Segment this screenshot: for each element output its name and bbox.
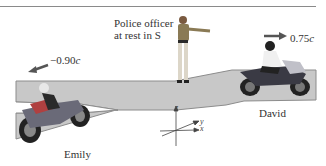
- emily-velocity-unit: c: [75, 54, 80, 66]
- david-velocity-value: 0.75: [290, 32, 309, 44]
- police-officer-figure-icon: [177, 16, 210, 83]
- emily-velocity-arrow-icon: [28, 65, 48, 73]
- officer-label: Police officer at rest in S: [114, 17, 173, 41]
- emily-velocity-value: −0.90: [50, 54, 75, 66]
- z-axis-label: z: [175, 103, 178, 112]
- coordinate-axes-icon: [160, 106, 199, 146]
- david-velocity-arrow-icon: [264, 32, 287, 40]
- emily-velocity-label: −0.90c: [50, 54, 80, 66]
- emily-name-label: Emily: [64, 148, 91, 160]
- david-name-label: David: [259, 107, 286, 119]
- david-velocity-unit: c: [309, 32, 314, 44]
- david-velocity-label: 0.75c: [290, 32, 314, 44]
- officer-label-line2: at rest in S: [114, 29, 173, 41]
- x-axis-label: x: [200, 124, 204, 133]
- officer-label-line1: Police officer: [114, 17, 173, 29]
- physics-figure: Police officer at rest in S −0.90c 0.75c…: [0, 0, 326, 166]
